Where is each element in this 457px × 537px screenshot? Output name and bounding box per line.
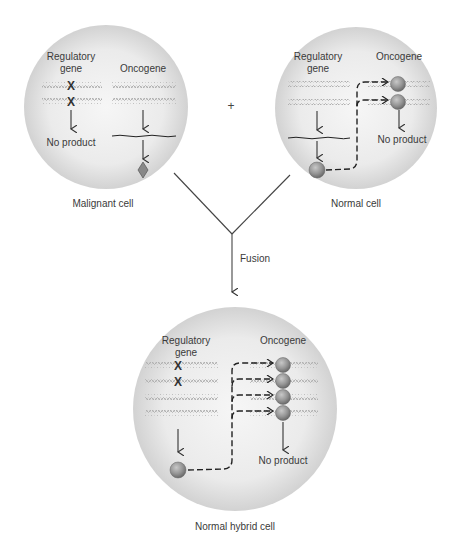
repressor-protein-ball-icon [170, 462, 186, 478]
oncogene-label: Oncogene [376, 51, 423, 62]
oncogene-label: Oncogene [260, 335, 307, 346]
malignant-cell-body [24, 25, 188, 189]
oncogene-label: Oncogene [120, 63, 167, 74]
regulatory-gene-label-line2: gene [307, 63, 330, 74]
fusion-arm-right [232, 175, 290, 234]
cell-fusion-diagram: Regulatory gene Oncogene X X No product … [0, 0, 457, 537]
regulatory-gene-label-line1: Regulatory [294, 51, 342, 62]
mutation-x-icon: X [174, 359, 182, 373]
repressor-ball-icon [276, 374, 291, 389]
dna-strand [112, 82, 176, 88]
repressor-ball-icon [276, 390, 291, 405]
plus-sign: + [227, 99, 234, 113]
dna-strand [288, 81, 350, 87]
fusion-arm-left [174, 173, 232, 234]
malignant-cell-caption: Malignant cell [72, 198, 133, 209]
fusion-label: Fusion [240, 253, 270, 264]
dna-strand [112, 98, 176, 104]
dna-strand [145, 394, 218, 400]
repressor-ball-icon [391, 77, 406, 92]
normal-cell: Regulatory gene Oncogene No product [275, 27, 437, 189]
mutation-x-icon: X [67, 95, 75, 109]
hybrid-cell: Regulatory gene Oncogene X X No product [133, 307, 337, 511]
repressor-ball-icon [391, 95, 406, 110]
regulatory-gene-label-line1: Regulatory [47, 51, 95, 62]
mutation-x-icon: X [67, 79, 75, 93]
normal-cell-caption: Normal cell [331, 198, 381, 209]
regulatory-gene-label-line2: gene [175, 347, 198, 358]
no-product-label: No product [47, 137, 96, 148]
repressor-ball-icon [276, 358, 291, 373]
hybrid-cell-caption: Normal hybrid cell [195, 521, 275, 532]
repressor-protein-ball-icon [309, 162, 325, 178]
regulatory-gene-label-line2: gene [60, 63, 83, 74]
no-product-label: No product [259, 455, 308, 466]
malignant-cell: Regulatory gene Oncogene X X No product [24, 25, 188, 189]
fusion-arrow: Fusion [174, 173, 290, 292]
regulatory-gene-label-line1: Regulatory [162, 335, 210, 346]
mutation-x-icon: X [174, 375, 182, 389]
dna-strand [288, 99, 350, 105]
no-product-label: No product [378, 134, 427, 145]
repressor-ball-icon [276, 406, 291, 421]
dna-strand [145, 410, 218, 416]
